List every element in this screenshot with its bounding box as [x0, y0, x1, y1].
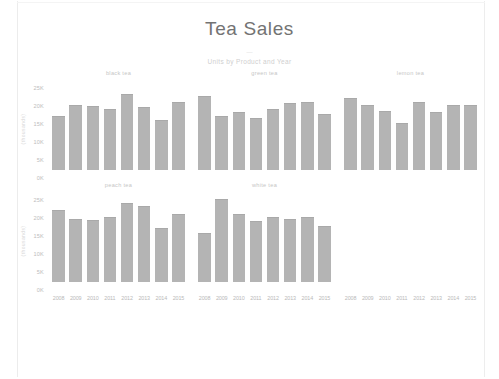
bar: [121, 203, 134, 282]
bar: [267, 109, 280, 170]
bar: [138, 206, 151, 282]
bar: [318, 226, 331, 282]
bar-slot: [101, 80, 118, 170]
bar-group: [196, 192, 333, 282]
bar-slot: [445, 80, 462, 170]
y-axis-title-top: (thousands): [20, 109, 26, 149]
x-axis-middle: 20082009201020112012201320142015: [196, 295, 333, 305]
bar-slot: [376, 80, 393, 170]
bar-slot: [84, 192, 101, 282]
bar-slot: [101, 192, 118, 282]
y-tick: 10K: [33, 251, 44, 257]
plot-area: [50, 80, 187, 170]
x-tick: 2010: [230, 295, 247, 305]
plot-area: [196, 80, 333, 170]
bar: [69, 105, 82, 170]
panel-title: green tea: [196, 70, 333, 76]
bar: [138, 107, 151, 170]
page-frame-top-edge: [17, 2, 485, 3]
bar: [215, 199, 228, 282]
bar: [104, 109, 117, 170]
bar-slot: [316, 80, 333, 170]
bar-slot: [462, 80, 479, 170]
bar: [87, 220, 100, 282]
bar-slot: [265, 80, 282, 170]
x-tick: 2015: [462, 295, 479, 305]
bar-slot: [230, 80, 247, 170]
page-title: Tea Sales: [0, 18, 499, 40]
bar: [301, 217, 314, 282]
bar: [413, 102, 426, 170]
bar-slot: [119, 192, 136, 282]
bar-slot: [342, 80, 359, 170]
bar: [233, 112, 246, 170]
x-tick: 2011: [247, 295, 264, 305]
y-tick: 20K: [33, 215, 44, 221]
panel-title: black tea: [50, 70, 187, 76]
bar-slot: [299, 80, 316, 170]
bar: [301, 102, 314, 170]
bar-slot: [359, 80, 376, 170]
x-tick: 2011: [101, 295, 118, 305]
bar: [104, 217, 117, 282]
bar: [361, 105, 374, 170]
page-subtitle: Units by Product and Year: [0, 58, 499, 65]
bar: [155, 120, 168, 170]
panel-title: white tea: [196, 182, 333, 188]
bar: [284, 219, 297, 282]
x-tick: 2014: [153, 295, 170, 305]
bar-slot: [393, 80, 410, 170]
y-tick: 0K: [37, 175, 44, 181]
panel-title: peach tea: [50, 182, 187, 188]
bar-slot: [316, 192, 333, 282]
bar: [52, 116, 65, 170]
bar-slot: [153, 192, 170, 282]
x-tick: 2012: [119, 295, 136, 305]
bar-slot: [282, 80, 299, 170]
plot-area: [342, 80, 479, 170]
x-axis-left: 20082009201020112012201320142015: [50, 295, 187, 305]
x-tick: 2008: [196, 295, 213, 305]
bar-slot: [136, 80, 153, 170]
bar-slot: [170, 80, 187, 170]
bar-slot: [411, 80, 428, 170]
bar-slot: [119, 80, 136, 170]
bar-group: [50, 192, 187, 282]
bar: [172, 214, 185, 282]
bar: [87, 106, 100, 170]
bar-slot: [50, 192, 67, 282]
bar: [250, 221, 263, 282]
bar-slot: [84, 80, 101, 170]
y-tick: 10K: [33, 139, 44, 145]
x-tick: 2010: [376, 295, 393, 305]
subtitle-dash: —: [0, 49, 499, 55]
bar: [464, 105, 477, 170]
bar-slot: [213, 80, 230, 170]
x-tick: 2015: [170, 295, 187, 305]
bar: [198, 233, 211, 282]
y-tick: 15K: [33, 233, 44, 239]
bar: [396, 123, 409, 170]
bar-group: [196, 80, 333, 170]
bar-slot: [153, 80, 170, 170]
bar-slot: [67, 80, 84, 170]
x-tick: 2008: [50, 295, 67, 305]
bar: [172, 102, 185, 170]
x-tick: 2014: [445, 295, 462, 305]
x-tick: 2012: [411, 295, 428, 305]
y-tick: 20K: [33, 103, 44, 109]
bar-slot: [265, 192, 282, 282]
x-tick: 2012: [265, 295, 282, 305]
x-tick: 2013: [136, 295, 153, 305]
bar: [430, 112, 443, 170]
plot-area: [196, 192, 333, 282]
x-tick: 2011: [393, 295, 410, 305]
bar: [69, 219, 82, 282]
y-tick: 15K: [33, 121, 44, 127]
bar: [284, 103, 297, 170]
x-tick: 2014: [299, 295, 316, 305]
bar: [233, 214, 246, 282]
bar-slot: [67, 192, 84, 282]
bar: [215, 116, 228, 170]
x-axis-right: 20082009201020112012201320142015: [342, 295, 479, 305]
